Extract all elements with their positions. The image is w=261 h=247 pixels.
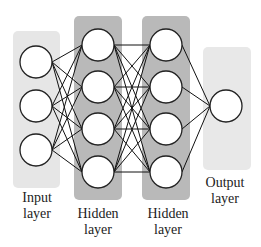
neuron-node xyxy=(82,113,114,145)
neuron-node xyxy=(20,134,52,166)
neuron-node xyxy=(150,156,182,188)
neuron-node xyxy=(150,71,182,103)
neuron-node xyxy=(82,156,114,188)
neuron-node xyxy=(210,90,242,122)
input-layer-label: Input layer xyxy=(7,190,67,222)
hidden-layer-1-label: Hidden layer xyxy=(68,206,128,238)
neuron-node xyxy=(82,71,114,103)
neuron-node xyxy=(150,113,182,145)
hidden-layer-2-label: Hidden layer xyxy=(138,206,198,238)
neuron-node xyxy=(150,29,182,61)
neuron-node xyxy=(82,29,114,61)
neuron-node xyxy=(20,46,52,78)
neuron-node xyxy=(20,90,52,122)
output-layer-label: Output layer xyxy=(195,175,255,207)
